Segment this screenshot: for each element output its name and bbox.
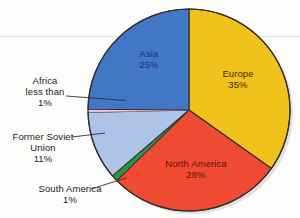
slice-label-africa: Africa less than 1%	[6, 75, 84, 109]
slice-label-former-soviet-union-value: 11%	[1, 153, 85, 164]
slice-label-asia: Asia 25%	[115, 48, 183, 70]
slice-label-europe-value: 35%	[205, 79, 271, 90]
slice-label-africa-value: 1%	[6, 97, 84, 108]
slice-label-asia-name: Asia	[140, 48, 159, 59]
slice-label-north-america-value: 28%	[146, 169, 246, 180]
pie-chart-figure: Asia 25% Europe 35% North America 28% Af…	[0, 0, 300, 218]
slice-label-europe-name: Europe	[222, 68, 253, 79]
slice-label-north-america: North America 28%	[146, 158, 246, 180]
slice-label-north-america-name: North America	[165, 158, 227, 169]
slice-label-asia-value: 25%	[115, 59, 183, 70]
slice-label-former-soviet-union-name-line1: Former Soviet	[13, 131, 74, 142]
slice-label-south-america-value: 1%	[18, 194, 122, 205]
slice-label-former-soviet-union: Former Soviet Union 11%	[1, 131, 85, 165]
slice-label-south-america-name: South America	[38, 183, 101, 194]
slice-label-south-america: South America 1%	[18, 183, 122, 205]
slice-label-africa-qualifier: less than	[6, 86, 84, 97]
slice-label-europe: Europe 35%	[205, 68, 271, 90]
slice-label-former-soviet-union-name-line2: Union	[1, 142, 85, 153]
slice-label-africa-name: Africa	[33, 75, 58, 86]
